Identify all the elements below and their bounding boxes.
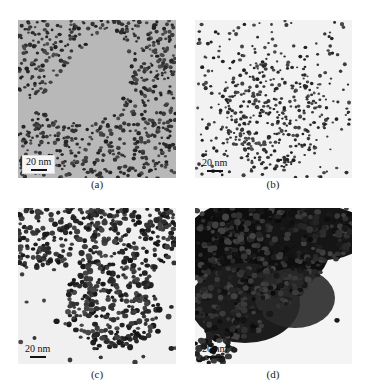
- micrograph-panel-b: 20 nm: [195, 20, 352, 178]
- caption-c: (c): [77, 368, 117, 380]
- caption-a: (a): [77, 178, 117, 190]
- scale-bar-label-c: 20 nm: [25, 343, 50, 354]
- scale-bar-label-d: 20 nm: [202, 343, 227, 354]
- scale-bar-line-d: [207, 356, 223, 358]
- tem-image-c: [18, 208, 176, 364]
- caption-d: (d): [253, 368, 293, 380]
- scale-bar-line-c: [30, 356, 46, 358]
- scale-bar-line-b: [207, 170, 223, 172]
- scale-bar-b: 20 nm: [199, 157, 230, 174]
- scale-bar-label-b: 20 nm: [202, 157, 227, 168]
- scale-bar-line-a: [31, 169, 47, 171]
- scale-bar-d: 20 nm: [199, 343, 230, 360]
- caption-b: (b): [253, 178, 293, 190]
- tem-image-d: [195, 208, 352, 364]
- scale-bar-c: 20 nm: [22, 343, 53, 360]
- micrograph-panel-d: 20 nm: [195, 208, 352, 364]
- scale-bar-label-a: 20 nm: [26, 156, 51, 167]
- tem-image-b: [195, 20, 352, 178]
- micrograph-panel-c: 20 nm: [18, 208, 176, 364]
- micrograph-panel-a: 20 nm: [18, 20, 176, 178]
- scale-bar-a: 20 nm: [22, 155, 55, 174]
